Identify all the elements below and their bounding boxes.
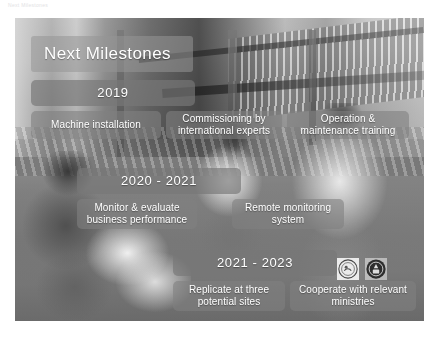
- milestone-item: Commissioning by international experts: [166, 111, 282, 139]
- milestone-item: Machine installation: [31, 111, 161, 139]
- timeline-year-2019: 2019: [31, 80, 195, 106]
- slide-title: Next Milestones: [31, 36, 193, 72]
- milestone-item: Replicate at three potential sites: [173, 281, 285, 311]
- timeline-year-2020-2021: 2020 - 2021: [77, 168, 241, 194]
- page-header-text: Next Milestones: [8, 2, 48, 8]
- caption-strip: [0, 326, 438, 348]
- page-header-strip: Next Milestones: [0, 0, 438, 18]
- milestone-item: Cooperate with relevant ministries: [290, 281, 416, 311]
- milestones-overlay: Next Milestones 2019 Machine installatio…: [15, 18, 424, 321]
- organisation-emblem-light-icon: [337, 258, 359, 280]
- milestone-item: Monitor & evaluate business performance: [77, 199, 197, 229]
- timeline-year-2021-2023: 2021 - 2023: [173, 250, 337, 276]
- milestone-item: Remote monitoring system: [232, 199, 344, 229]
- organisation-emblem-dark-icon: [365, 258, 387, 280]
- slide-image: Next Milestones 2019 Machine installatio…: [15, 18, 424, 321]
- milestone-item: Operation & maintenance training: [287, 111, 409, 139]
